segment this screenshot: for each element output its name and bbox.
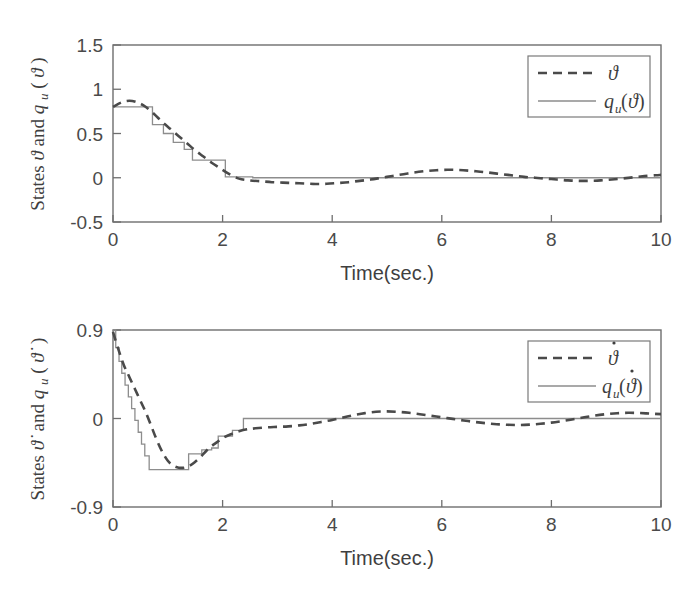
y-tick-label: 0 (92, 168, 103, 189)
chart-top-svg: 0246810 -0.500.511.5 ϑ q u ( ϑ ) (0, 0, 700, 299)
x-tick-label: 8 (546, 229, 557, 250)
y-axis-title-bottom-conjunction: and (27, 404, 48, 432)
legend-label-qu-thetadot-base: q (602, 375, 612, 398)
y-axis-tick-labels-bottom: -0.900.9 (70, 320, 103, 518)
legend-label-thetadot-dot-icon (612, 341, 615, 344)
x-axis-title-top: Time(sec.) (340, 262, 434, 284)
legend-label-thetadot-base: ϑ (608, 347, 619, 369)
y-tick-label: 1.5 (77, 35, 103, 56)
y-axis-title-bottom-open-paren: ( (27, 367, 49, 373)
x-tick-label: 4 (327, 229, 338, 250)
y-axis-title-top-symbol2-arg: ϑ (27, 67, 48, 78)
x-tick-label: 2 (217, 514, 228, 535)
x-tick-label: 4 (327, 514, 338, 535)
y-axis-title-bottom-prefix: States (27, 455, 48, 500)
y-axis-ticks-bottom (113, 330, 121, 507)
legend-label-qu-thetadot-open-paren: ( (619, 375, 626, 398)
y-axis-title-top-prefix: States (27, 165, 48, 210)
x-tick-label: 0 (108, 514, 119, 535)
x-tick-label: 0 (108, 229, 119, 250)
y-tick-label: 0.5 (77, 124, 103, 145)
legend-bottom: ϑ q u ( ϑ ) (528, 341, 650, 402)
y-axis-title-bottom-symbol2-arg: ϑ (27, 352, 48, 363)
legend-top: ϑ q u ( ϑ ) (528, 56, 650, 117)
y-tick-label: 1 (92, 79, 103, 100)
x-axis-tick-labels-bottom: 0246810 (108, 514, 672, 535)
chart-panel-top: 0246810 -0.500.511.5 ϑ q u ( ϑ ) (0, 0, 700, 299)
legend-label-theta: ϑ (608, 62, 619, 84)
y-tick-label: 0 (92, 409, 103, 430)
y-axis-title-top-symbol2-base: q (27, 104, 48, 114)
x-axis-ticks-bottom (113, 500, 661, 507)
y-tick-label: -0.9 (70, 497, 103, 518)
legend-label-qu-thetadot-close-paren: ) (636, 375, 643, 398)
y-axis-title-top-symbol1: ϑ (27, 150, 48, 161)
x-tick-label: 6 (437, 229, 448, 250)
x-tick-label: 10 (650, 514, 671, 535)
y-axis-title-bottom-symbol2-base: q (27, 389, 48, 399)
legend-label-qu-theta-close-paren: ) (638, 90, 645, 113)
y-axis-title-bottom-group: States ϑ ̇ and q u ( ϑ ̇ ) (27, 338, 52, 501)
x-axis-tick-labels-top: 0246810 (108, 229, 672, 250)
legend-label-qu-thetadot: q u ( ϑ ) (602, 369, 643, 401)
legend-label-qu-thetadot-dot-icon (630, 369, 633, 372)
x-axis-ticks-top (113, 215, 661, 222)
y-axis-title-top-conjunction: and (27, 119, 48, 147)
y-tick-label: 0.9 (77, 320, 103, 341)
x-tick-label: 10 (650, 229, 671, 250)
y-tick-label: -0.5 (70, 212, 103, 233)
y-axis-title-top: States ϑ and q u ( ϑ ) (27, 57, 52, 210)
chart-panel-bottom: 0246810 -0.900.9 ϑ q u ( ϑ ) (0, 299, 700, 598)
y-axis-ticks-top (113, 45, 121, 222)
y-axis-title-top-close-paren: ) (27, 57, 49, 63)
x-tick-label: 8 (546, 514, 557, 535)
x-tick-label: 6 (437, 514, 448, 535)
legend-label-qu-theta-open-paren: ( (621, 90, 628, 113)
x-tick-label: 2 (217, 229, 228, 250)
y-axis-title-top-open-paren: ( (27, 82, 49, 88)
y-axis-title-bottom-close-paren: ) (27, 338, 49, 344)
figure-container: 0246810 -0.500.511.5 ϑ q u ( ϑ ) (0, 0, 700, 598)
y-axis-title-bottom-symbol2-sub: u (36, 378, 51, 385)
x-axis-title-bottom: Time(sec.) (340, 547, 434, 569)
chart-bottom-svg: 0246810 -0.900.9 ϑ q u ( ϑ ) (0, 299, 700, 598)
y-axis-title-bottom: States ϑ ̇ and q u ( ϑ ̇ ) (27, 338, 52, 501)
y-axis-title-top-symbol2-sub: u (36, 93, 51, 100)
y-axis-tick-labels-top: -0.500.511.5 (70, 35, 103, 233)
y-axis-title-top-group: States ϑ and q u ( ϑ ) (27, 57, 52, 210)
legend-label-qu-theta-base: q (604, 90, 614, 113)
y-axis-title-bottom-symbol1: ϑ (27, 439, 48, 450)
